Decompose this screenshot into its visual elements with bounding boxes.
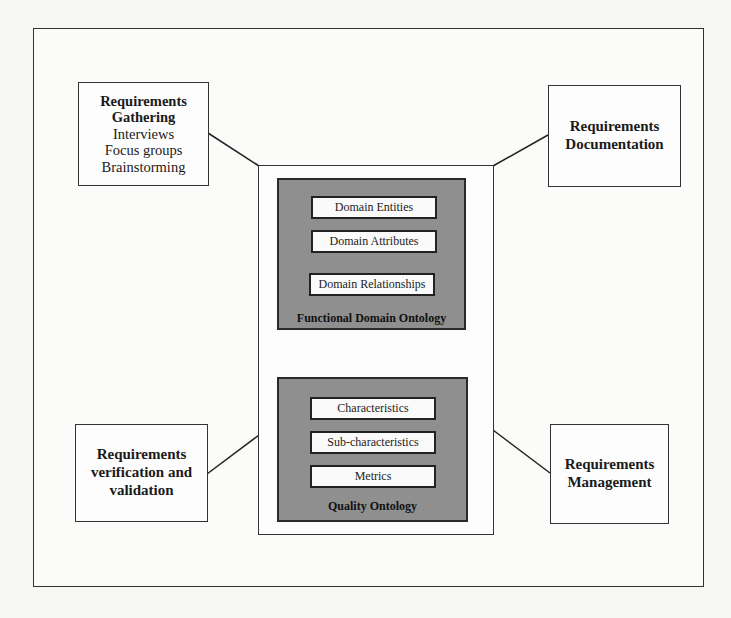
functional-domain-ontology-box: Domain Entities Domain Attributes Domain… [277, 178, 466, 330]
rd-title-line-2: Documentation [565, 136, 663, 154]
rg-item-focus-groups: Focus groups [105, 142, 183, 159]
requirements-gathering-box: Requirements Gathering Interviews Focus … [78, 82, 209, 186]
requirements-management-box: Requirements Management [550, 424, 669, 524]
fdo-label: Functional Domain Ontology [279, 311, 464, 326]
rd-title-line-1: Requirements [570, 118, 660, 136]
requirements-documentation-box: Requirements Documentation [548, 85, 681, 187]
rg-title-line-1: Requirements [100, 93, 187, 110]
fdo-item-domain-entities: Domain Entities [311, 196, 437, 219]
quality-ontology-box: Characteristics Sub-characteristics Metr… [277, 377, 468, 522]
rv-title-line-2: verification and [91, 464, 192, 482]
rv-title-line-1: Requirements [97, 446, 187, 464]
qo-item-characteristics: Characteristics [310, 397, 436, 420]
fdo-item-domain-attributes: Domain Attributes [311, 230, 437, 253]
rm-title-line-1: Requirements [565, 456, 655, 474]
rg-item-interviews: Interviews [113, 126, 174, 143]
fdo-item-domain-relationships: Domain Relationships [309, 273, 435, 296]
rg-item-brainstorming: Brainstorming [102, 159, 186, 176]
rm-title-line-2: Management [567, 474, 651, 492]
qo-label: Quality Ontology [279, 499, 466, 514]
qo-item-metrics: Metrics [310, 465, 436, 488]
rv-title-line-3: validation [109, 482, 173, 500]
requirements-verification-box: Requirements verification and validation [75, 424, 208, 522]
rg-title-line-2: Gathering [112, 109, 176, 126]
qo-item-sub-characteristics: Sub-characteristics [310, 431, 436, 454]
